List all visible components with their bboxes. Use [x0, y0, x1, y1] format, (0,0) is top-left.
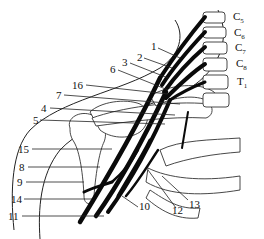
spinal-level-labels: C5 C6 C7 C8 T1 — [233, 10, 248, 90]
label-6: 6 — [110, 63, 116, 75]
label-13: 13 — [189, 198, 201, 210]
label-9: 9 — [17, 176, 23, 188]
label-14: 14 — [11, 193, 23, 205]
label-5: 5 — [33, 114, 39, 126]
label-c8: C8 — [236, 57, 247, 72]
vertebral-column — [203, 12, 229, 107]
label-3: 3 — [122, 56, 128, 68]
label-8: 8 — [19, 161, 25, 173]
label-t1: T1 — [237, 75, 248, 90]
label-11: 11 — [8, 210, 19, 222]
label-1: 1 — [151, 40, 157, 52]
label-c7: C7 — [235, 41, 246, 56]
label-16: 16 — [72, 79, 84, 91]
brachial-plexus-diagram: C5 C6 C7 C8 T1 1 2 3 6 16 7 4 5 15 8 9 — [0, 0, 264, 239]
label-10: 10 — [139, 200, 151, 212]
label-7: 7 — [56, 89, 62, 101]
label-15: 15 — [18, 143, 30, 155]
label-2: 2 — [137, 51, 143, 63]
label-12: 12 — [172, 204, 183, 216]
label-c6: C6 — [234, 26, 245, 41]
label-4: 4 — [41, 102, 47, 114]
label-c5: C5 — [233, 10, 244, 25]
